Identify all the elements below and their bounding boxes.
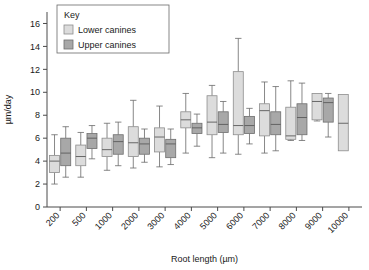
box-plot-light [155,106,165,167]
y-tick-label: 14 [30,42,40,52]
x-tick-label: 2000 [119,210,140,231]
x-tick-label: 500 [70,210,88,228]
x-tick-label: 1000 [93,210,114,231]
box-body [297,104,307,135]
box-body [139,138,149,154]
box-plot-light [102,123,112,170]
box-plot-light [233,38,243,154]
y-tick-label: 16 [30,19,40,29]
box-body [50,155,60,172]
box-plot-dark [271,87,281,151]
box-plot-chart: 0246810121416µm/day200500100020003000400… [0,0,369,270]
y-tick-label: 10 [30,87,40,97]
x-axis-title: Root length (µm) [171,254,238,264]
y-axis-title: µm/day [3,94,13,124]
chart-canvas: 0246810121416µm/day200500100020003000400… [0,0,369,270]
legend: KeyLower caninesUpper canines [57,5,169,53]
box-plot-light [128,100,138,168]
box-plot-dark [323,93,333,137]
y-tick-label: 4 [35,156,40,166]
box-plot-dark [113,122,123,166]
box-body [76,145,86,166]
box-body [271,112,281,135]
box-body [61,138,71,166]
y-tick-label: 8 [35,110,40,120]
box-body [192,123,202,133]
box-plot-dark [139,129,149,162]
x-tick-label: 8000 [277,210,298,231]
y-tick-label: 6 [35,133,40,143]
box-plot-dark [244,108,254,144]
box-body [338,95,348,151]
box-plot-light [312,93,322,121]
x-tick-label: 6000 [224,210,245,231]
box-body [207,96,217,135]
legend-swatch [64,25,73,34]
legend-entry-label: Lower canines [78,25,137,35]
box-plot-dark [192,114,202,146]
x-tick-label: 5000 [198,210,219,231]
y-tick-label: 0 [35,202,40,212]
box-body [244,116,254,133]
box-plot-dark [297,83,307,140]
box-body [218,112,228,133]
box-plot-light [260,82,270,153]
box-plot-light [338,95,348,151]
box-body [166,139,176,157]
box-body [323,98,333,122]
box-plot-light [181,93,191,153]
box-plot-light [286,81,296,141]
x-tick-label: 200 [44,210,62,228]
box-body [113,135,123,155]
x-tick-label: 4000 [172,210,193,231]
box-plot-dark [87,126,97,159]
x-tick-label: 9000 [303,210,324,231]
box-body [155,128,165,152]
box-plot-dark [218,101,228,153]
y-tick-label: 12 [30,65,40,75]
box-plot-light [76,132,86,177]
x-tick-label: 7000 [250,210,271,231]
box-plot-dark [166,129,176,165]
box-plot-dark [61,127,71,177]
box-body [87,134,97,149]
y-tick-label: 2 [35,179,40,189]
box-body [312,93,322,119]
legend-title: Key [64,10,80,20]
legend-entry-label: Upper canines [78,40,137,50]
box-body [260,104,270,136]
legend-swatch [64,40,73,49]
x-tick-label: 10000 [326,210,351,235]
box-plot-light [50,135,60,184]
box-plot-light [207,85,217,157]
box-body [286,107,296,139]
box-body [102,138,112,156]
x-tick-label: 3000 [145,210,166,231]
box-body [128,127,138,157]
